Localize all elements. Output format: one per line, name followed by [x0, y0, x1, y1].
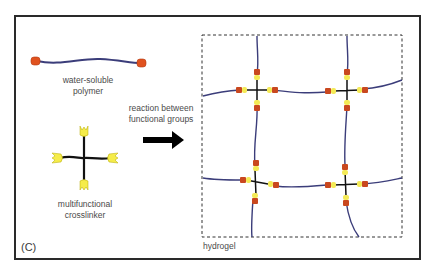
water-soluble-polymer-icon [31, 57, 146, 67]
hydrogel-label: hydrogel [203, 241, 236, 252]
polymer-label: water-soluble polymer [52, 75, 124, 97]
multifunctional-crosslinker-icon [52, 126, 118, 190]
crosslinker-label-line2: crosslinker [47, 210, 123, 221]
crosslinker-label: multifunctional crosslinker [47, 199, 123, 221]
reaction-label: reaction between functional groups [121, 103, 201, 125]
reaction-arrow-icon [143, 131, 184, 149]
polymer-label-line1: water-soluble [52, 75, 124, 86]
reaction-label-line2: functional groups [121, 114, 201, 125]
hydrogel-box [202, 35, 402, 237]
polymer-label-line2: polymer [52, 86, 124, 97]
hydrogel-network [203, 36, 402, 237]
panel-label: (C) [21, 241, 36, 253]
reaction-label-line1: reaction between [121, 103, 201, 114]
diagram-canvas [0, 0, 435, 276]
crosslinker-label-line1: multifunctional [47, 199, 123, 210]
